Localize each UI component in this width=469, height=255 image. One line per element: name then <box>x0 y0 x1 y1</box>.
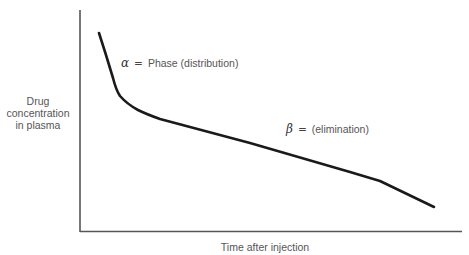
equals-sign: = <box>134 57 143 69</box>
y-axis-label: Drug concentration in plasma <box>2 95 74 131</box>
y-axis-label-line-2: concentration <box>2 107 74 119</box>
alpha-phase-annotation: α=Phase (distribution) <box>121 56 238 70</box>
equals-sign: = <box>298 123 307 135</box>
x-axis-label: Time after injection <box>200 241 330 253</box>
y-axis-label-line-3: in plasma <box>2 119 74 131</box>
beta-symbol: β <box>286 122 293 136</box>
alpha-phase-text: Phase (distribution) <box>148 57 238 69</box>
beta-phase-annotation: β=(elimination) <box>286 122 369 136</box>
y-axis-label-line-1: Drug <box>2 95 74 107</box>
alpha-symbol: α <box>121 56 129 70</box>
beta-phase-text: (elimination) <box>312 123 369 135</box>
